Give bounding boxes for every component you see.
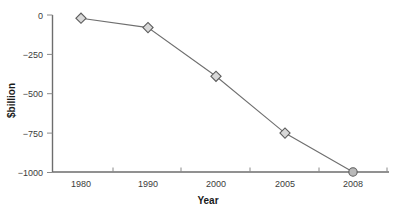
x-tick-label-2005: 2005 <box>275 179 295 189</box>
x-tick-label-2008: 2008 <box>343 179 363 189</box>
x-tick-label-1980: 1980 <box>71 179 91 189</box>
chart-background <box>0 0 395 211</box>
chart-canvas: 0 −250 −500 −750 −1000 1980 1990 2000 20… <box>0 0 395 211</box>
y-tick-label-1: −250 <box>23 50 43 60</box>
x-tick-label-2000: 2000 <box>206 179 226 189</box>
y-axis-title: $billion <box>6 83 17 118</box>
data-point-2008 <box>349 168 357 176</box>
y-tick-label-0: 0 <box>38 11 43 21</box>
y-tick-label-4: −1000 <box>18 168 43 178</box>
y-tick-label-2: −500 <box>23 89 43 99</box>
x-axis-title: Year <box>197 195 218 206</box>
y-tick-label-3: −750 <box>23 129 43 139</box>
x-tick-label-1990: 1990 <box>138 179 158 189</box>
line-chart: 0 −250 −500 −750 −1000 1980 1990 2000 20… <box>0 0 395 211</box>
